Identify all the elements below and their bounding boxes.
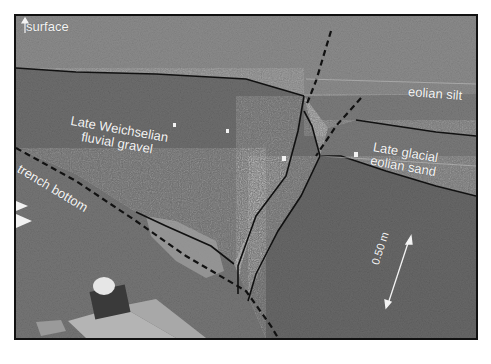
surface-label: surface [20, 20, 69, 34]
trench-photo [16, 16, 476, 338]
photo-frame: surface eolian silt Late Weichselian flu… [14, 14, 478, 340]
